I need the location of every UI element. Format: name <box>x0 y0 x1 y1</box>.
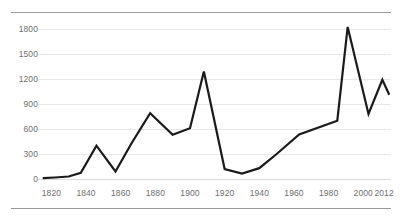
x-tick-label: 2012 <box>364 189 402 198</box>
x-axis-tick-labels: 1820184018601880190019201940196019802000… <box>0 0 402 220</box>
chart-figure: 0300600900120015001800 18201840186018801… <box>0 0 402 220</box>
